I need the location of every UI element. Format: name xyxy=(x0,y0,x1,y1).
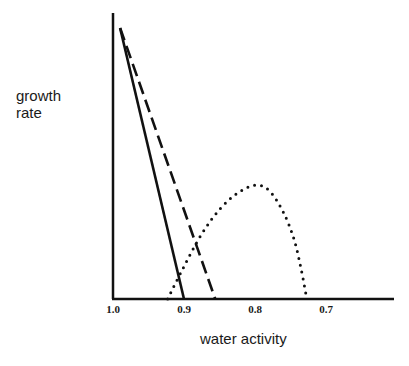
chart-canvas xyxy=(0,0,409,366)
x-tick-0-9: 0.9 xyxy=(177,303,191,315)
x-tick-0-7: 0.7 xyxy=(319,303,333,315)
series-solid xyxy=(120,28,184,299)
y-axis-label-line1: growth xyxy=(16,87,61,104)
x-tick-0-8: 0.8 xyxy=(248,303,262,315)
x-tick-1-0: 1.0 xyxy=(106,303,120,315)
series-dashed xyxy=(120,28,215,299)
x-axis-label: water activity xyxy=(200,330,287,347)
series-dotted xyxy=(168,185,307,299)
y-axis-label: growth rate xyxy=(16,87,61,121)
plot-series xyxy=(120,28,307,299)
y-axis-label-line2: rate xyxy=(16,104,61,121)
